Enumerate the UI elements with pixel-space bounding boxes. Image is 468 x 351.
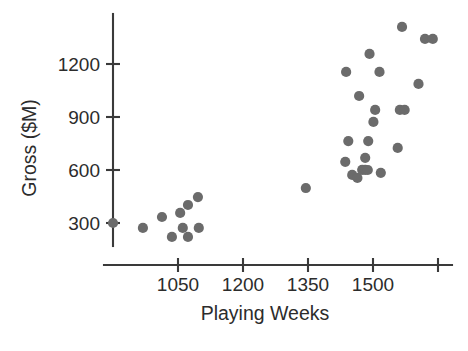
data-point — [400, 105, 410, 115]
data-point — [301, 183, 311, 193]
data-point — [178, 223, 188, 233]
chart-canvas: 30060090012001050120013501500Playing Wee… — [0, 0, 468, 351]
x-axis-tick-label: 1050 — [157, 274, 199, 295]
x-axis-title: Playing Weeks — [201, 302, 330, 324]
data-point — [193, 192, 203, 202]
data-point — [393, 143, 403, 153]
data-point — [343, 136, 353, 146]
data-point — [175, 208, 185, 218]
data-point — [374, 67, 384, 77]
x-axis-tick-label: 1500 — [352, 274, 394, 295]
scatter-plot-figure: 30060090012001050120013501500Playing Wee… — [0, 0, 468, 351]
data-point — [354, 91, 364, 101]
y-axis-tick-label: 600 — [68, 160, 100, 181]
y-axis-tick-label: 1200 — [58, 54, 100, 75]
data-point — [370, 105, 380, 115]
data-point — [194, 223, 204, 233]
y-axis-tick-label: 300 — [68, 213, 100, 234]
data-point — [363, 136, 373, 146]
data-point — [368, 117, 378, 127]
y-axis-title: Gross ($M) — [18, 99, 40, 197]
data-point — [157, 212, 167, 222]
data-point — [364, 49, 374, 59]
y-axis-tick-label: 900 — [68, 107, 100, 128]
data-point — [376, 168, 386, 178]
data-point — [167, 232, 177, 242]
data-point — [340, 157, 350, 167]
data-point — [341, 67, 351, 77]
data-point — [413, 79, 423, 89]
data-point — [183, 232, 193, 242]
data-point — [360, 153, 370, 163]
data-point — [397, 22, 407, 32]
data-point — [363, 165, 373, 175]
data-point — [428, 34, 438, 44]
x-axis-tick-label: 1350 — [287, 274, 329, 295]
data-point — [183, 200, 193, 210]
x-axis-tick-label: 1200 — [222, 274, 264, 295]
data-point — [138, 223, 148, 233]
data-point — [108, 218, 118, 228]
